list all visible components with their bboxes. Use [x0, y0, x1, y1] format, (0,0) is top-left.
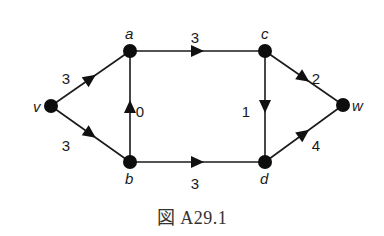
edge-weight-label: 3 — [62, 137, 70, 154]
node-c — [258, 44, 272, 58]
arrow-icon — [259, 100, 271, 113]
node-w — [336, 98, 350, 112]
node-a — [123, 44, 137, 58]
edge-weight-label: 3 — [191, 175, 199, 192]
node-d — [258, 155, 272, 169]
edge-weight-label: 1 — [242, 103, 250, 120]
arrow-icon — [191, 45, 204, 57]
node-v — [44, 99, 58, 113]
figure-caption: 図 A29.1 — [0, 203, 384, 229]
arrow-icon — [82, 75, 96, 87]
arrow-icon — [82, 125, 96, 137]
node-label-c: c — [261, 25, 269, 42]
arrow-icon — [295, 69, 309, 81]
edge-weight-label: 2 — [312, 70, 320, 87]
edge-weight-label: 0 — [136, 103, 144, 120]
edge-weight-label: 4 — [312, 137, 320, 154]
nodes — [44, 44, 350, 169]
arrow-icon — [295, 130, 309, 143]
arrow-icon — [191, 156, 204, 168]
node-label-b: b — [125, 170, 133, 187]
node-label-w: w — [352, 97, 364, 114]
edge-weight-label: 3 — [191, 29, 199, 46]
node-b — [123, 155, 137, 169]
node-label-v: v — [33, 98, 42, 115]
directed-weighted-graph: 33033124vabcdw — [0, 0, 384, 236]
edges — [51, 51, 343, 162]
node-label-a: a — [125, 25, 133, 42]
edge-weight-label: 3 — [62, 70, 70, 87]
arrow-icon — [124, 100, 136, 113]
arrowheads — [82, 45, 310, 168]
node-label-d: d — [260, 170, 269, 187]
